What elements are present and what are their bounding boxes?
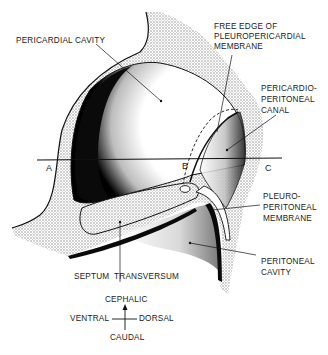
septum-opening bbox=[180, 186, 190, 193]
label-free-edge-line1: FREE EDGE OF bbox=[214, 22, 277, 32]
label-canal-line1: PERICARDIO- bbox=[261, 84, 317, 94]
orientation-dorsal: DORSAL bbox=[139, 314, 174, 324]
label-canal-line3: CANAL bbox=[261, 106, 289, 116]
leader-dot bbox=[226, 149, 228, 151]
label-pleuro-line1: PLEURO- bbox=[263, 192, 301, 202]
anatomy-diagram bbox=[0, 0, 328, 355]
leader-dot bbox=[189, 242, 191, 244]
label-free-edge-line2: PLEUROPERICARDIAL bbox=[214, 32, 306, 42]
label-peritoneal-line2: CAVITY bbox=[261, 268, 291, 278]
label-peritoneal-line1: PERITONEAL bbox=[261, 257, 315, 267]
leader-dot bbox=[119, 221, 121, 223]
leader-dot bbox=[160, 100, 162, 102]
label-pericardial-cavity: PERICARDIAL CAVITY bbox=[16, 36, 105, 46]
label-pleuro-line2: PERITONEAL bbox=[263, 203, 317, 213]
label-pleuro-line3: MEMBRANE bbox=[263, 214, 312, 224]
label-free-edge-line3: MEMBRANE bbox=[214, 42, 263, 52]
section-label-b: B bbox=[182, 161, 188, 171]
section-label-a: A bbox=[46, 163, 52, 173]
orientation-ventral: VENTRAL bbox=[70, 314, 109, 324]
orientation-caudal: CAUDAL bbox=[110, 333, 144, 343]
orientation-cephalic: CEPHALIC bbox=[105, 295, 148, 305]
section-label-c: C bbox=[265, 163, 272, 173]
label-septum-transversum: SEPTUM TRANSVERSUM bbox=[74, 272, 179, 282]
label-canal-line2: PERITONEAL bbox=[261, 95, 315, 105]
